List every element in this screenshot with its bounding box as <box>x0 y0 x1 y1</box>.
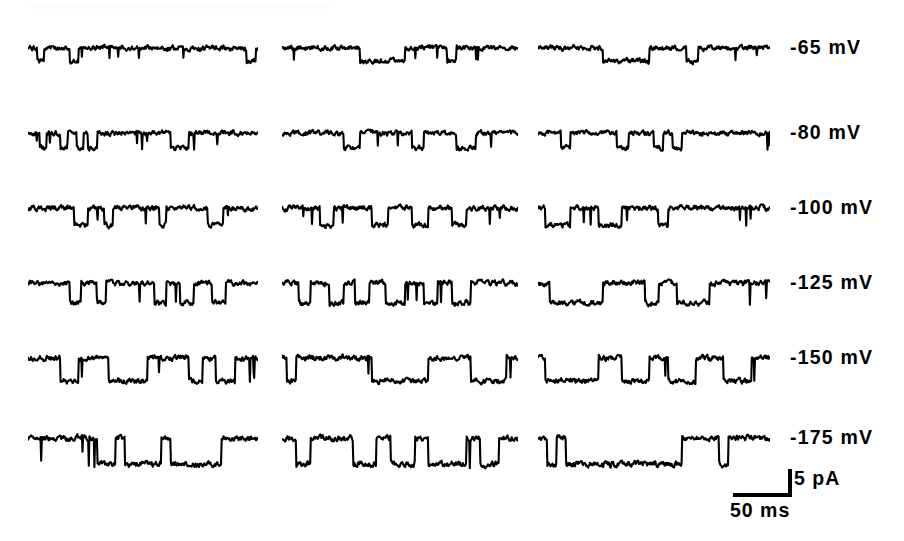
row-label--125mv: -125 mV <box>790 271 873 294</box>
trace-row--150mv <box>0 336 904 400</box>
trace-sweep <box>538 416 770 480</box>
trace-row--125mv <box>0 261 904 325</box>
trace-sweep <box>282 336 518 400</box>
trace-sweep <box>282 261 518 325</box>
trace-row--80mv <box>0 111 904 175</box>
trace-sweep <box>28 261 258 325</box>
row-label--80mv: -80 mV <box>790 121 861 144</box>
figure-canvas: -65 mV-80 mV-100 mV-125 mV-150 mV-175 mV… <box>0 0 904 541</box>
trace-sweep <box>538 186 770 250</box>
trace-row--100mv <box>0 186 904 250</box>
trace-sweep <box>28 416 258 480</box>
scale-bar-current-label: 5 pA <box>794 467 840 490</box>
trace-sweep <box>538 261 770 325</box>
trace-sweep <box>282 111 518 175</box>
trace-sweep <box>538 336 770 400</box>
trace-sweep <box>538 111 770 175</box>
trace-row--65mv <box>0 26 904 90</box>
trace-sweep <box>538 26 770 90</box>
row-label--65mv: -65 mV <box>790 36 861 59</box>
trace-sweep <box>28 336 258 400</box>
scale-bar-time-label: 50 ms <box>730 499 790 522</box>
trace-sweep <box>28 26 258 90</box>
trace-sweep <box>282 186 518 250</box>
trace-row--175mv <box>0 416 904 480</box>
trace-sweep <box>28 111 258 175</box>
scale-bar-time-line <box>733 493 788 497</box>
trace-sweep <box>28 186 258 250</box>
scan-artifact <box>30 4 330 9</box>
trace-sweep <box>282 416 518 480</box>
row-label--150mv: -150 mV <box>790 346 873 369</box>
row-label--100mv: -100 mV <box>790 196 873 219</box>
trace-sweep <box>282 26 518 90</box>
row-label--175mv: -175 mV <box>790 426 873 449</box>
scale-bar-current-line <box>788 469 792 497</box>
